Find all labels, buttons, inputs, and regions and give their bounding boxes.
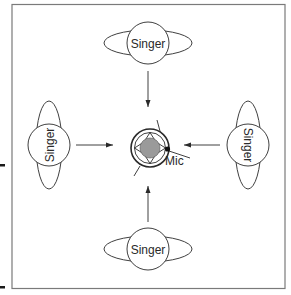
margin-tick-upper xyxy=(0,164,5,167)
diagram-canvas: Singer Singer Singer Singer Mic xyxy=(0,0,291,295)
singer-bottom-label: Singer xyxy=(131,243,166,257)
singer-left: Singer xyxy=(28,101,70,189)
margin-tick-lower xyxy=(0,286,5,289)
mic-front-dot xyxy=(165,146,170,151)
singer-top-label: Singer xyxy=(131,37,166,51)
mic-tangent-lower xyxy=(134,166,140,176)
singer-right-label: Singer xyxy=(241,128,255,163)
singer-bottom: Singer xyxy=(104,228,192,270)
singer-right: Singer xyxy=(227,101,269,189)
mic-capsule xyxy=(140,138,160,158)
mic-label: Mic xyxy=(165,154,184,168)
singer-left-label: Singer xyxy=(43,128,57,163)
singer-top: Singer xyxy=(104,22,192,64)
